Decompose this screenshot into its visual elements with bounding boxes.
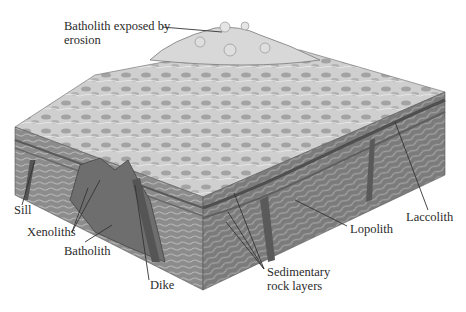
label-line: rock layers <box>267 279 330 293</box>
label-line: Sedimentary <box>267 265 330 279</box>
label-batholith: Batholith <box>64 244 111 258</box>
label-dike: Dike <box>150 278 174 292</box>
geology-block-diagram: Batholith exposed by erosion Sill Xenoli… <box>0 0 466 312</box>
label-laccolith: Laccolith <box>406 210 453 224</box>
label-line: erosion <box>64 33 170 47</box>
label-sedimentary-rock-layers: Sedimentary rock layers <box>267 265 330 293</box>
label-lopolith: Lopolith <box>350 222 393 236</box>
exposed-batholith <box>150 27 320 65</box>
label-xenoliths: Xenoliths <box>27 225 76 239</box>
label-line: Batholith exposed by <box>64 19 170 33</box>
label-sill: Sill <box>14 203 31 217</box>
label-batholith-exposed: Batholith exposed by erosion <box>64 19 170 47</box>
